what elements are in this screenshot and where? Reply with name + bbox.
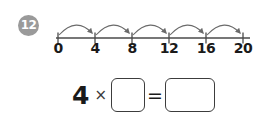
tick-label-0: 0	[53, 40, 62, 56]
tick-label-4: 4	[90, 40, 99, 56]
answer-box-product[interactable]	[165, 78, 215, 112]
multiplication-sign-icon: ×	[94, 88, 107, 103]
jump-arc-12-16	[170, 25, 204, 35]
number-line-diagram: 0 4 8 12 16 20	[48, 10, 260, 56]
tick-label-16: 16	[197, 40, 215, 56]
number-line-jump-arcs	[59, 25, 241, 35]
equation-row: 4 × =	[72, 74, 215, 116]
jump-arc-16-20	[207, 25, 241, 35]
answer-box-factor[interactable]	[111, 78, 145, 112]
question-number-badge: 12	[18, 15, 39, 36]
number-line-tick-labels: 0 4 8 12 16 20	[48, 40, 260, 58]
jump-arc-0-4	[59, 25, 93, 35]
jump-arc-8-12	[133, 25, 167, 35]
tick-label-12: 12	[160, 40, 178, 56]
tick-label-20: 20	[234, 40, 252, 56]
equation-factor: 4	[72, 83, 89, 108]
tick-label-8: 8	[127, 40, 136, 56]
equals-sign-icon: =	[147, 86, 163, 105]
worksheet-question: 12	[0, 0, 270, 130]
jump-arc-4-8	[96, 25, 130, 35]
